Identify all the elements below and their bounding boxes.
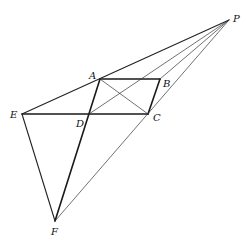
segment-BC <box>148 79 160 114</box>
label-P: P <box>232 13 240 24</box>
segment-AC <box>100 79 148 114</box>
label-D: D <box>75 118 84 129</box>
segment-BP <box>160 20 229 79</box>
labels: P A B C D E F <box>9 13 240 237</box>
label-E: E <box>9 109 18 120</box>
label-B: B <box>162 78 170 89</box>
label-A: A <box>88 70 96 81</box>
segment-AF <box>55 79 100 221</box>
segments <box>22 20 229 221</box>
segment-EP <box>22 20 229 114</box>
segment-EF <box>22 114 55 221</box>
geometry-diagram: P A B C D E F <box>0 0 251 249</box>
segment-DP <box>89 20 229 114</box>
label-F: F <box>50 226 59 237</box>
label-C: C <box>153 112 161 123</box>
